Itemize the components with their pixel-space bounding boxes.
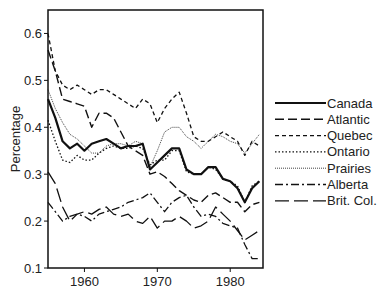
- legend-label: Alberta: [327, 177, 369, 192]
- y-tick-label: 0.5: [24, 73, 42, 88]
- series-lines: [48, 34, 259, 259]
- legend-label: Ontario: [327, 144, 370, 159]
- series-line-quebec: [48, 34, 259, 156]
- legend: CanadaAtlanticQuebecOntarioPrairiesAlber…: [275, 96, 377, 209]
- legend-label: Canada: [327, 96, 373, 111]
- series-line-ontario: [48, 120, 259, 202]
- x-tick-label: 1970: [143, 274, 172, 289]
- y-tick-label: 0.2: [24, 214, 42, 229]
- series-line-brit-col: [48, 172, 259, 240]
- x-tick-label: 1980: [216, 274, 245, 289]
- plot-frame: [48, 10, 263, 268]
- legend-label: Prairies: [327, 161, 372, 176]
- series-line-alberta: [48, 193, 259, 259]
- legend-label: Atlantic: [327, 112, 370, 127]
- legend-label: Brit. Col.: [327, 193, 377, 208]
- y-tick-label: 0.1: [24, 261, 42, 276]
- y-axis-label: Percentage: [8, 106, 23, 173]
- y-tick-label: 0.6: [24, 26, 42, 41]
- x-axis: 196019701980: [70, 268, 245, 289]
- x-tick-label: 1960: [70, 274, 99, 289]
- y-tick-label: 0.3: [24, 167, 42, 182]
- series-line-atlantic: [48, 50, 259, 212]
- legend-label: Quebec: [327, 128, 373, 143]
- line-chart: 0.10.20.30.40.50.6 196019701980 Percenta…: [0, 0, 381, 294]
- series-line-prairies: [48, 90, 259, 167]
- y-axis: 0.10.20.30.40.50.6: [24, 26, 48, 276]
- y-tick-label: 0.4: [24, 120, 42, 135]
